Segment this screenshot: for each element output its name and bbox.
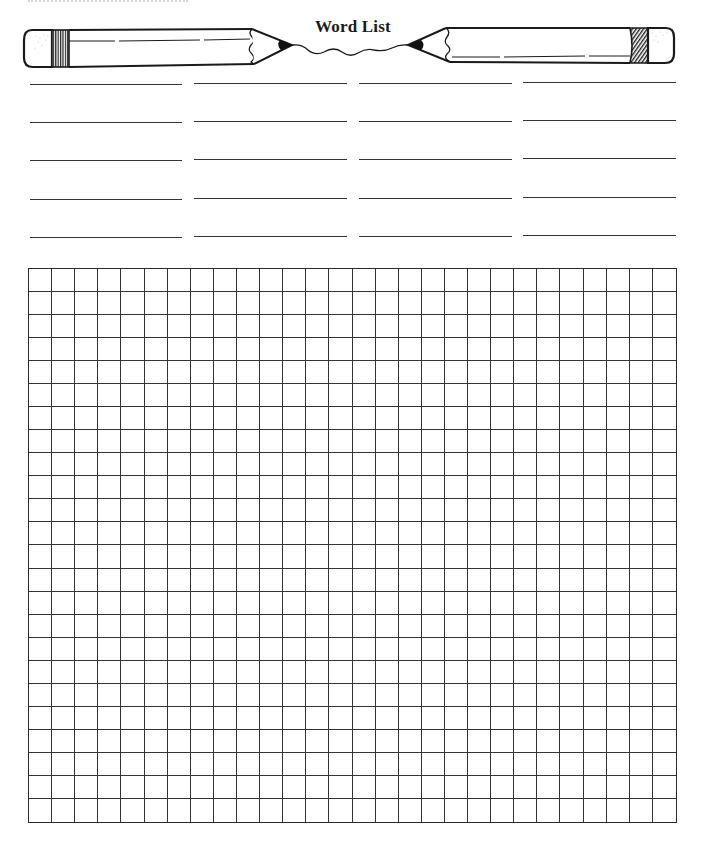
grid-cell[interactable]: [607, 545, 630, 568]
grid-cell[interactable]: [630, 592, 653, 615]
grid-cell[interactable]: [75, 522, 98, 545]
grid-cell[interactable]: [537, 453, 560, 476]
grid-cell[interactable]: [353, 592, 376, 615]
grid-cell[interactable]: [653, 361, 676, 384]
grid-cell[interactable]: [376, 292, 399, 315]
grid-cell[interactable]: [584, 338, 607, 361]
grid-cell[interactable]: [214, 269, 237, 292]
grid-cell[interactable]: [237, 430, 260, 453]
grid-cell[interactable]: [75, 430, 98, 453]
grid-cell[interactable]: [376, 753, 399, 776]
grid-cell[interactable]: [168, 522, 191, 545]
grid-cell[interactable]: [399, 569, 422, 592]
grid-cell[interactable]: [399, 407, 422, 430]
grid-cell[interactable]: [283, 384, 306, 407]
grid-cell[interactable]: [445, 522, 468, 545]
grid-cell[interactable]: [98, 292, 121, 315]
grid-cell[interactable]: [353, 730, 376, 753]
grid-cell[interactable]: [653, 615, 676, 638]
grid-cell[interactable]: [329, 592, 352, 615]
word-entry-line[interactable]: [523, 120, 676, 121]
grid-cell[interactable]: [191, 292, 214, 315]
grid-cell[interactable]: [584, 522, 607, 545]
grid-cell[interactable]: [260, 476, 283, 499]
grid-cell[interactable]: [98, 338, 121, 361]
grid-cell[interactable]: [491, 615, 514, 638]
grid-cell[interactable]: [399, 499, 422, 522]
grid-cell[interactable]: [306, 776, 329, 799]
grid-cell[interactable]: [52, 499, 75, 522]
grid-cell[interactable]: [121, 799, 144, 822]
grid-cell[interactable]: [214, 638, 237, 661]
grid-cell[interactable]: [329, 430, 352, 453]
grid-cell[interactable]: [260, 615, 283, 638]
grid-cell[interactable]: [98, 269, 121, 292]
grid-cell[interactable]: [630, 269, 653, 292]
grid-cell[interactable]: [214, 361, 237, 384]
grid-cell[interactable]: [306, 292, 329, 315]
grid-cell[interactable]: [468, 430, 491, 453]
grid-cell[interactable]: [260, 407, 283, 430]
grid-cell[interactable]: [537, 592, 560, 615]
grid-cell[interactable]: [29, 384, 52, 407]
grid-cell[interactable]: [237, 661, 260, 684]
grid-cell[interactable]: [353, 476, 376, 499]
grid-cell[interactable]: [214, 315, 237, 338]
grid-cell[interactable]: [98, 522, 121, 545]
grid-cell[interactable]: [491, 638, 514, 661]
grid-cell[interactable]: [653, 522, 676, 545]
grid-cell[interactable]: [52, 592, 75, 615]
grid-cell[interactable]: [491, 407, 514, 430]
grid-cell[interactable]: [399, 707, 422, 730]
grid-cell[interactable]: [514, 384, 537, 407]
grid-cell[interactable]: [237, 269, 260, 292]
grid-cell[interactable]: [214, 453, 237, 476]
grid-cell[interactable]: [607, 453, 630, 476]
grid-cell[interactable]: [145, 569, 168, 592]
grid-cell[interactable]: [514, 407, 537, 430]
grid-cell[interactable]: [145, 384, 168, 407]
grid-cell[interactable]: [329, 730, 352, 753]
grid-cell[interactable]: [468, 407, 491, 430]
grid-cell[interactable]: [52, 730, 75, 753]
grid-cell[interactable]: [584, 730, 607, 753]
grid-cell[interactable]: [75, 638, 98, 661]
grid-cell[interactable]: [191, 799, 214, 822]
grid-cell[interactable]: [191, 269, 214, 292]
grid-cell[interactable]: [214, 753, 237, 776]
grid-cell[interactable]: [353, 638, 376, 661]
grid-cell[interactable]: [422, 476, 445, 499]
grid-cell[interactable]: [353, 384, 376, 407]
grid-cell[interactable]: [468, 522, 491, 545]
grid-cell[interactable]: [607, 430, 630, 453]
grid-cell[interactable]: [260, 453, 283, 476]
grid-cell[interactable]: [560, 407, 583, 430]
grid-cell[interactable]: [537, 799, 560, 822]
grid-cell[interactable]: [283, 615, 306, 638]
grid-cell[interactable]: [353, 361, 376, 384]
grid-cell[interactable]: [607, 615, 630, 638]
grid-cell[interactable]: [98, 476, 121, 499]
grid-cell[interactable]: [537, 661, 560, 684]
grid-cell[interactable]: [445, 569, 468, 592]
grid-cell[interactable]: [329, 776, 352, 799]
grid-cell[interactable]: [306, 315, 329, 338]
grid-cell[interactable]: [121, 776, 144, 799]
grid-cell[interactable]: [607, 753, 630, 776]
grid-cell[interactable]: [75, 799, 98, 822]
grid-cell[interactable]: [191, 499, 214, 522]
grid-cell[interactable]: [607, 569, 630, 592]
grid-cell[interactable]: [121, 707, 144, 730]
grid-cell[interactable]: [653, 269, 676, 292]
grid-cell[interactable]: [260, 684, 283, 707]
grid-cell[interactable]: [98, 569, 121, 592]
grid-cell[interactable]: [376, 569, 399, 592]
grid-cell[interactable]: [514, 684, 537, 707]
grid-cell[interactable]: [329, 384, 352, 407]
grid-cell[interactable]: [468, 338, 491, 361]
grid-cell[interactable]: [237, 707, 260, 730]
grid-cell[interactable]: [630, 730, 653, 753]
grid-cell[interactable]: [607, 776, 630, 799]
grid-cell[interactable]: [306, 545, 329, 568]
grid-cell[interactable]: [214, 776, 237, 799]
